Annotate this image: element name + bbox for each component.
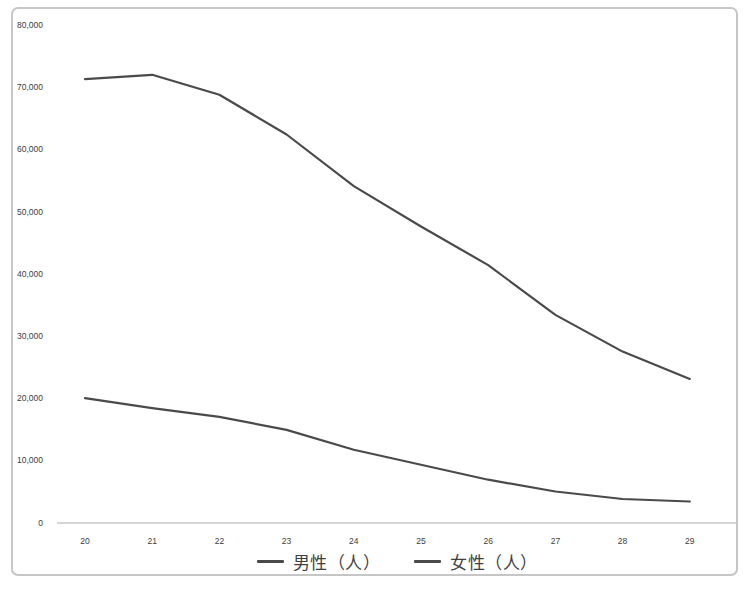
legend-item-female: 女性（人） <box>414 549 538 574</box>
y-tick-label: 20,000 <box>17 393 43 403</box>
y-tick-label: 50,000 <box>17 207 43 217</box>
x-tick-label: 24 <box>349 536 359 546</box>
x-tick-label: 22 <box>215 536 225 546</box>
x-tick-label: 29 <box>685 536 695 546</box>
male-line-swatch-icon <box>257 560 284 563</box>
line-chart: 010,00020,00030,00040,00050,00060,00070,… <box>0 0 747 590</box>
y-tick-label: 60,000 <box>17 144 43 154</box>
x-tick-label: 20 <box>80 536 90 546</box>
chart-legend: 男性（人） 女性（人） <box>57 548 737 574</box>
x-tick-label: 25 <box>416 536 426 546</box>
y-tick-label: 40,000 <box>17 269 43 279</box>
y-tick-label: 30,000 <box>17 331 43 341</box>
female-series-line <box>85 398 690 501</box>
x-tick-label: 23 <box>282 536 292 546</box>
y-tick-label: 0 <box>38 518 43 528</box>
male-series-line <box>85 75 690 379</box>
legend-label-female: 女性（人） <box>450 549 538 574</box>
chart-page: 010,00020,00030,00040,00050,00060,00070,… <box>0 0 747 590</box>
x-tick-label: 28 <box>618 536 628 546</box>
y-tick-label: 70,000 <box>17 82 43 92</box>
y-tick-label: 80,000 <box>17 20 43 30</box>
x-tick-label: 26 <box>483 536 493 546</box>
legend-item-male: 男性（人） <box>257 549 381 574</box>
x-tick-label: 21 <box>147 536 157 546</box>
female-line-swatch-icon <box>414 560 441 563</box>
x-tick-label: 27 <box>551 536 561 546</box>
y-tick-label: 10,000 <box>17 455 43 465</box>
legend-label-male: 男性（人） <box>293 549 381 574</box>
